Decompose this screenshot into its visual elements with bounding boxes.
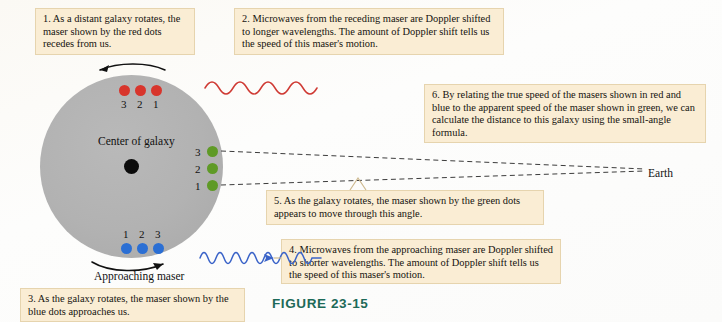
callout-1: 1. As a distant galaxy rotates, the mase… <box>35 8 195 55</box>
blue-maser-dot-3 <box>153 243 164 254</box>
red-maser-dot-1 <box>151 85 162 96</box>
galaxy-center-dot <box>124 159 139 174</box>
sightline-green-1 <box>221 171 645 185</box>
figure-page: 1. As a distant galaxy rotates, the mase… <box>0 0 722 322</box>
callout-2: 2. Microwaves from the receding maser ar… <box>234 8 504 55</box>
rotation-arrow-top <box>100 64 165 72</box>
green-maser-label-2: 2 <box>195 164 201 175</box>
blue-maser-label-2: 2 <box>139 229 145 240</box>
blue-maser-dot-1 <box>121 243 132 254</box>
callout-5: 5. As the galaxy rotates, the maser show… <box>266 190 544 225</box>
callout-6: 6. By relating the true speed of the mas… <box>424 84 706 143</box>
blue-maser-label-1: 1 <box>123 229 129 240</box>
green-maser-dot-3 <box>207 146 218 157</box>
green-maser-label-1: 1 <box>195 181 201 192</box>
red-maser-label-2: 2 <box>137 99 143 110</box>
callout-4: 4. Microwaves from the approaching maser… <box>281 239 561 284</box>
red-maser-dot-3 <box>119 85 130 96</box>
callout-3: 3. As the galaxy rotates, the maser show… <box>20 288 245 322</box>
green-maser-dot-1 <box>207 180 218 191</box>
sightline-green-3 <box>221 151 645 169</box>
green-maser-dot-2 <box>207 163 218 174</box>
redshifted-wave <box>205 82 317 94</box>
earth-label: Earth <box>648 167 673 179</box>
red-maser-dot-2 <box>135 85 146 96</box>
center-of-galaxy-label: Center of galaxy <box>98 135 175 147</box>
red-maser-label-3: 3 <box>121 99 127 110</box>
blue-maser-label-3: 3 <box>155 229 161 240</box>
callout-5-leader <box>350 178 366 190</box>
blue-maser-dot-2 <box>137 243 148 254</box>
figure-number-label: FIGURE 23-15 <box>272 296 368 311</box>
approaching-maser-label: Approaching maser <box>94 270 184 282</box>
green-maser-label-3: 3 <box>195 147 201 158</box>
red-maser-label-1: 1 <box>153 99 159 110</box>
